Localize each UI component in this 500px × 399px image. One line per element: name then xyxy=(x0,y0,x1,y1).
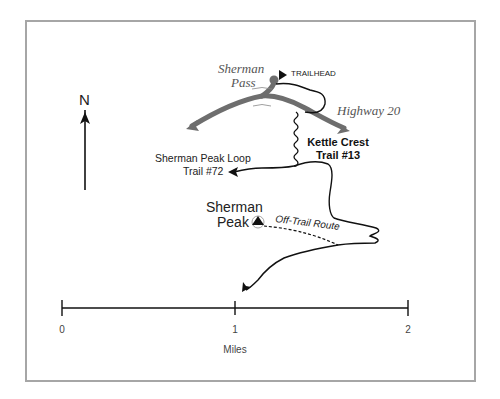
scale-tick-0: 0 xyxy=(55,325,69,335)
sherman-pass-label-2: Pass xyxy=(231,76,256,89)
scale-tick-2: 2 xyxy=(401,325,415,335)
north-label: N xyxy=(79,92,90,107)
sherman-peak-label-1: Sherman xyxy=(206,200,263,214)
north-arrow-icon xyxy=(80,110,90,190)
trailhead-label: TRAILHEAD xyxy=(291,70,336,78)
highway-label: Highway 20 xyxy=(337,104,400,117)
loop-trail-label-1: Sherman Peak Loop xyxy=(155,153,251,164)
scale-tick-1: 1 xyxy=(228,325,242,335)
trailhead-flag-icon xyxy=(279,70,287,80)
peak-triangle-icon xyxy=(252,216,264,228)
kettle-crest-trail xyxy=(294,112,298,166)
highway-20-road xyxy=(192,76,344,129)
kettle-crest-label-1: Kettle Crest xyxy=(302,137,374,148)
scale-unit-label: Miles xyxy=(210,345,260,355)
loop-trail-label-2: Trail #72 xyxy=(183,166,223,177)
scale-bar xyxy=(62,300,408,316)
loop-trail-72 xyxy=(234,166,294,172)
kettle-crest-label-2: Trail #13 xyxy=(302,150,374,161)
sherman-pass-label-1: Sherman xyxy=(218,62,264,75)
sherman-peak-label-2: Peak xyxy=(217,215,249,229)
